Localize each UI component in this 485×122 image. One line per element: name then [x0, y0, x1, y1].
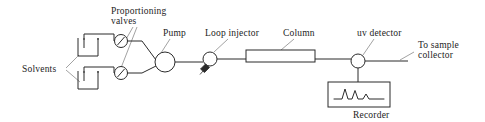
column: [246, 50, 351, 62]
leader-to-sample-collector: [400, 52, 414, 60]
schematic-canvas: Proportioning valves Solvents Pump Loop …: [0, 0, 485, 122]
loop-injector: [200, 52, 246, 75]
leader-uv-detector: [363, 39, 374, 55]
uv-detector: [351, 54, 408, 82]
label-pump: Pump: [163, 28, 186, 38]
leader-pump: [161, 39, 170, 53]
label-proportioning-valves-line1: Proportioning: [111, 6, 166, 16]
pump: [155, 52, 203, 72]
label-proportioning-valves-line2: valves: [111, 16, 137, 26]
label-loop-injector: Loop injector: [205, 28, 260, 38]
solvent-reservoir-bottom: [78, 67, 114, 89]
proportioning-valve-bottom: [115, 66, 157, 80]
label-solvents: Solvents: [22, 64, 56, 74]
label-to-sample-collector-line1: To sample: [418, 40, 459, 50]
proportioning-valve-top: [115, 35, 157, 61]
label-uv-detector: uv detector: [357, 28, 402, 38]
leader-solvents-top: [66, 55, 79, 68]
label-column: Column: [283, 28, 315, 38]
recorder: [328, 82, 390, 107]
hplc-schematic-diagram: Proportioning valves Solvents Pump Loop …: [0, 0, 485, 122]
solvent-reservoir-top: [78, 34, 114, 56]
leader-column: [281, 39, 294, 50]
label-to-sample-collector-line2: collector: [418, 50, 454, 60]
leader-loop-injector: [214, 39, 228, 52]
label-recorder: Recorder: [353, 110, 390, 120]
